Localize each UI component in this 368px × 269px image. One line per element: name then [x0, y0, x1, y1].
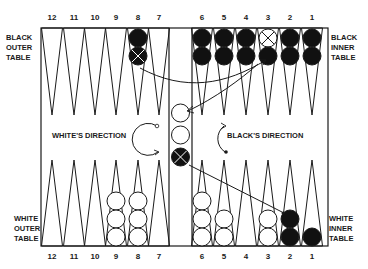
point-number: 4: [244, 252, 249, 261]
point-number: 9: [114, 252, 119, 261]
white-checker: [129, 210, 147, 228]
point-number: 9: [114, 13, 119, 22]
black-direction-label: BLACK'S DIRECTION: [227, 131, 303, 140]
point-number: 5: [222, 13, 227, 22]
point-triangle: [106, 28, 127, 115]
point-triangle: [149, 28, 170, 115]
point-number: 11: [70, 252, 79, 261]
white-inner-table-label: WHITE INNER TABLE: [329, 214, 355, 243]
black-checker: [281, 29, 299, 47]
white-checker: [172, 104, 190, 122]
point-triangle: [149, 160, 170, 246]
point-number: 6: [200, 13, 205, 22]
white-checker: [129, 192, 147, 210]
bottom-point-numbers: 121110987654321: [48, 252, 315, 261]
white-checker: [259, 228, 277, 246]
point-triangle: [64, 28, 85, 115]
point-number: 4: [244, 13, 249, 22]
point-number: 2: [288, 252, 293, 261]
black-checker: [215, 47, 233, 65]
white-outer-table-label: WHITE OUTER TABLE: [14, 214, 42, 243]
black-inner-table-label: BLACK INNER TABLE: [331, 33, 359, 62]
point-number: 7: [157, 13, 162, 22]
point-number: 1: [310, 252, 315, 261]
point-number: 11: [70, 13, 79, 22]
black-checker: [281, 228, 299, 246]
white-checker: [193, 192, 211, 210]
black-checker: [237, 29, 255, 47]
point-triangle: [85, 28, 106, 115]
black-checker-crossed: [172, 148, 190, 166]
white-checker: [193, 228, 211, 246]
point-triangle: [85, 160, 106, 246]
white-checker: [193, 210, 211, 228]
point-triangle: [64, 160, 85, 246]
white-checker: [107, 192, 125, 210]
point-number: 2: [288, 13, 293, 22]
point-number: 12: [48, 13, 57, 22]
point-triangle: [236, 160, 257, 246]
point-triangle: [42, 160, 63, 246]
white-checker: [107, 228, 125, 246]
point-number: 7: [157, 252, 162, 261]
white-direction-arrow-icon: [132, 123, 159, 155]
point-number: 10: [91, 252, 100, 261]
point-number: 8: [136, 13, 141, 22]
black-outer-table-label: BLACK OUTER TABLE: [6, 33, 34, 62]
point-number: 3: [266, 252, 271, 261]
black-checker: [193, 47, 211, 65]
white-checker: [259, 210, 277, 228]
white-checker-crossed: [259, 29, 277, 47]
black-checker: [237, 47, 255, 65]
black-checker: [215, 29, 233, 47]
black-checker-crossed: [129, 47, 147, 65]
black-checker: [303, 228, 321, 246]
point-number: 1: [310, 13, 315, 22]
black-checker: [281, 47, 299, 65]
top-point-numbers: 121110987654321: [48, 13, 315, 22]
white-checker: [129, 228, 147, 246]
black-checker: [303, 47, 321, 65]
backgammon-board: 121110987654321 121110987654321 BLACK OU…: [0, 0, 368, 269]
white-checker: [215, 228, 233, 246]
black-checker: [193, 29, 211, 47]
white-direction-label: WHITE'S DIRECTION: [52, 131, 126, 140]
point-number: 6: [200, 252, 205, 261]
white-checker: [172, 126, 190, 144]
point-number: 8: [136, 252, 141, 261]
point-number: 3: [266, 13, 271, 22]
point-triangle: [42, 28, 63, 115]
bar-checkers: [172, 104, 190, 166]
black-checker: [129, 29, 147, 47]
point-number: 5: [222, 252, 227, 261]
point-number: 10: [91, 13, 100, 22]
point-number: 12: [48, 252, 57, 261]
white-checker: [215, 210, 233, 228]
black-checker: [303, 29, 321, 47]
white-checker: [107, 210, 125, 228]
